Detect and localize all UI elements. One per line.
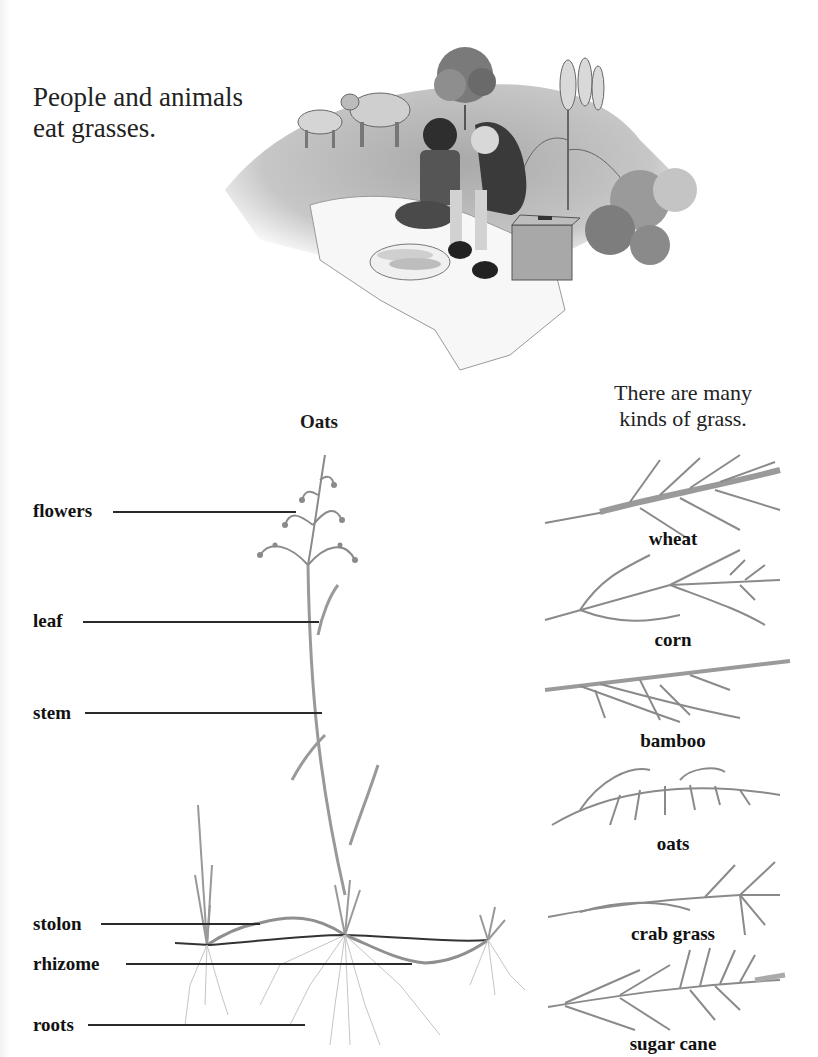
leader-line-stem: [85, 712, 322, 714]
oat-leaf: [318, 585, 338, 635]
label-stolon: stolon: [33, 913, 82, 935]
grass-label-bamboo: bamboo: [553, 730, 793, 752]
label-roots: roots: [33, 1014, 74, 1036]
intro-line-2: eat grasses.: [33, 113, 243, 144]
kinds-line-1: There are many: [598, 380, 768, 406]
picnic-illustration: [220, 30, 720, 380]
corn-plate-icon: [370, 244, 450, 280]
oats-drawing: [552, 768, 780, 825]
oat-leaf-right: [350, 765, 378, 845]
intro-line-1: People and animals: [33, 82, 243, 113]
label-leaf: leaf: [33, 610, 63, 632]
kinds-text: There are many kinds of grass.: [598, 380, 768, 432]
grass-label-corn: corn: [553, 629, 793, 651]
diagram-title: Oats: [300, 411, 338, 433]
leader-line-roots: [88, 1024, 305, 1026]
grass-label-sugar-cane: sugar cane: [553, 1033, 793, 1055]
oat-stem: [308, 565, 345, 895]
label-stem: stem: [33, 702, 71, 724]
grass-label-oats: oats: [553, 833, 793, 855]
oat-spikelets: [257, 482, 358, 563]
sugar-cane-drawing: [548, 948, 785, 1030]
oat-flowers: [260, 455, 355, 565]
label-rhizome: rhizome: [33, 953, 99, 975]
leader-line-rhizome: [126, 963, 412, 965]
intro-text: People and animals eat grasses.: [33, 82, 243, 144]
leader-line-stolon: [101, 923, 260, 925]
oat-plant-drawing: [150, 445, 550, 1050]
bamboo-drawing: [545, 661, 790, 722]
grass-label-crab-grass: crab grass: [553, 923, 793, 945]
page-edge-shadow: [0, 0, 10, 1057]
leader-line-leaf: [83, 621, 319, 623]
grass-label-wheat: wheat: [553, 528, 793, 550]
leader-line-flowers: [113, 511, 296, 513]
kinds-line-2: kinds of grass.: [598, 406, 768, 432]
picnic-basket-icon: [512, 215, 580, 280]
label-flowers: flowers: [33, 500, 92, 522]
roots-drawing: [185, 935, 525, 1045]
corn-drawing: [545, 550, 780, 625]
